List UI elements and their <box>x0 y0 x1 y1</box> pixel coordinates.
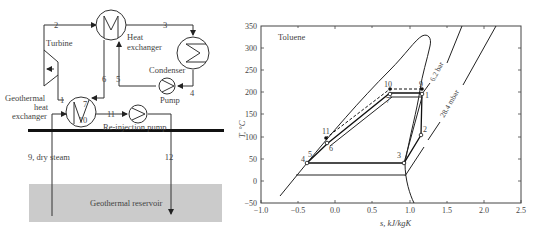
label-turbine: Turbine <box>46 38 73 48</box>
state-2: 2 <box>54 20 58 30</box>
isobar-high-upper <box>447 26 462 63</box>
label-condenser: Condenser <box>149 65 186 75</box>
state-4: 4 <box>190 88 195 98</box>
heat-exchanger-icon <box>96 10 126 40</box>
x-axis-label: s, kJ/kgK <box>380 218 412 228</box>
point-4 <box>305 161 309 165</box>
xtick-3: 0.5 <box>367 206 377 215</box>
label-dry-steam: 9, dry steam <box>28 152 70 162</box>
point-11 <box>324 136 328 140</box>
turbine-icon <box>44 50 58 86</box>
label-point-11: 11 <box>322 127 330 136</box>
label-point-10: 10 <box>384 80 392 89</box>
label-point-3: 3 <box>397 151 401 160</box>
ytick-350: 350 <box>245 22 257 31</box>
state-points <box>305 87 424 165</box>
label-heat-exchanger-2: exchanger <box>127 42 162 52</box>
ytick-250: 250 <box>245 66 257 75</box>
label-pump: Pump <box>160 95 180 105</box>
ytick-200: 200 <box>245 88 257 97</box>
state-10: 10 <box>79 115 88 125</box>
state-1: 1 <box>60 95 64 105</box>
xtick-1: −0.5 <box>291 206 306 215</box>
state-11: 11 <box>107 109 115 119</box>
figure: Turbine Heat exchanger Condenser Pump Ge… <box>0 0 535 237</box>
label-geothermal-reservoir: Geothermal reservoir <box>90 198 163 208</box>
state-7: 7 <box>83 99 87 109</box>
geothermal-steam-line <box>326 89 422 138</box>
label-geothermal-hx-3: exchanger <box>12 111 47 121</box>
xtick-6: 2.0 <box>479 206 489 215</box>
label-point-7: 7 <box>386 96 390 105</box>
xtick-7: 2.5 <box>516 206 526 215</box>
label-point-5: 5 <box>308 150 312 159</box>
isobar-low-upper <box>463 26 496 85</box>
plot-frame <box>261 26 521 203</box>
ytick-50: 50 <box>249 155 257 164</box>
label-point-1: 1 <box>425 91 429 100</box>
ytick-0: 0 <box>253 177 257 186</box>
saturation-dome <box>280 35 431 203</box>
xtick-4: 1.0 <box>405 206 415 215</box>
pump-icon <box>159 78 175 94</box>
label-point-4: 4 <box>301 155 305 164</box>
state-5: 5 <box>116 74 120 84</box>
chart-title: Toluene <box>278 32 305 42</box>
point-1 <box>420 92 424 96</box>
y-axis-label: T, °C <box>237 120 247 138</box>
label-point-6: 6 <box>329 144 333 153</box>
state-3: 3 <box>163 20 167 30</box>
heating-line <box>330 97 392 146</box>
label-point-9: 9 <box>419 80 423 89</box>
isobar-low-label: 28.4 mbar <box>438 88 461 119</box>
x-ticks <box>261 26 521 203</box>
ytick-minus50: −50 <box>244 199 257 208</box>
state-12: 12 <box>165 152 174 162</box>
expansion-line <box>404 97 422 163</box>
ytick-150: 150 <box>245 110 257 119</box>
label-reinjection-pump: Re-injection pump <box>103 122 167 132</box>
state-6: 6 <box>102 74 106 84</box>
isobar-high-label: 6.2 bar <box>428 60 446 83</box>
ytick-300: 300 <box>245 44 257 53</box>
ts-chart: −1.0 −0.5 0.0 0.5 1.0 1.5 2.0 2.5 350 30… <box>237 22 526 228</box>
xtick-5: 1.5 <box>442 206 452 215</box>
label-point-2: 2 <box>423 125 427 134</box>
xtick-2: 0.0 <box>330 206 340 215</box>
label-heat-exchanger-1: Heat <box>127 32 144 42</box>
point-3 <box>402 161 406 165</box>
